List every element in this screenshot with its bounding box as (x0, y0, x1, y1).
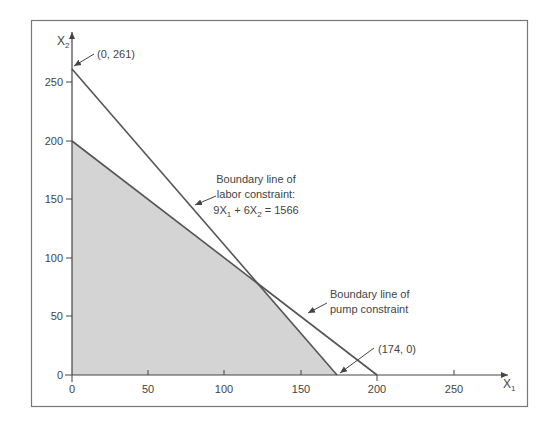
y-tick-label: 100 (45, 252, 63, 264)
point-label-0-261: (0, 261) (97, 48, 135, 60)
svg-text:Boundary line of: Boundary line of (216, 173, 296, 185)
x-tick-label: 100 (215, 383, 233, 395)
x-tick-label: 0 (69, 383, 75, 395)
x-tick-label: 150 (292, 383, 310, 395)
point-label-174-0: (174, 0) (378, 343, 416, 355)
y-tick-label: 0 (57, 369, 63, 381)
y-tick-label: 150 (45, 193, 63, 205)
y-tick-label: 200 (45, 135, 63, 147)
y-tick-label: 50 (51, 310, 63, 322)
y-tick-label: 250 (45, 76, 63, 88)
x-tick-label: 250 (445, 383, 463, 395)
svg-text:pump constraint: pump constraint (330, 303, 408, 315)
svg-text:labor constraint:: labor constraint: (217, 188, 295, 200)
labor-annotation: Boundary line of labor constraint: 9X1 +… (213, 173, 298, 219)
x-tick-label: 50 (142, 383, 154, 395)
lp-chart: 0 50 100 150 200 250 0 50 100 150 200 25… (0, 0, 551, 428)
svg-text:Boundary line of: Boundary line of (330, 288, 410, 300)
x-tick-label: 200 (368, 383, 386, 395)
